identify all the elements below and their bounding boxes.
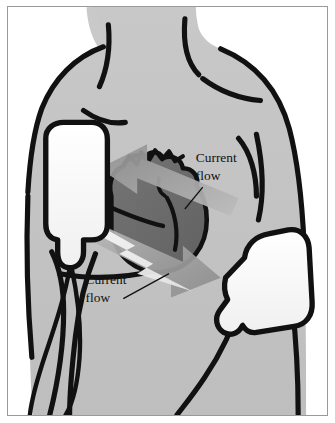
defibrillator-pad-placement-illustration: Current flow Current flow [8,7,327,415]
label-current-flow-lower-line1: Current [86,272,127,287]
label-current-flow-upper-line2: flow [196,168,221,183]
figure-container: Current flow Current flow [0,0,335,423]
label-current-flow-lower-line2: flow [86,290,111,305]
figure-frame: Current flow Current flow [7,6,328,416]
label-current-flow-upper-line1: Current [196,150,237,165]
